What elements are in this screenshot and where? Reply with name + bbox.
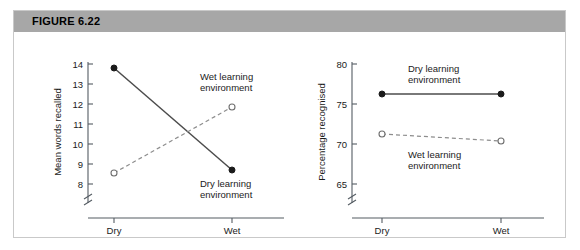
chart-a-xtick-label-dry: Dry [107,225,122,236]
chart-a-label-dry-line2: environment [200,189,253,200]
chart-b-label-dry-line2: environment [408,74,461,85]
chart-a-marker-dry-at-wet [229,167,235,173]
chart-b-ytick-80: 80 [336,59,347,70]
chart-a-label-dry-line1: Dry learning [200,178,251,189]
chart-a-ytick-13: 13 [72,79,83,90]
chart-a-series-wet-line [114,107,232,173]
chart-a-ytick-12: 12 [72,99,83,110]
chart-b-label-wet-line1: Wet learning [408,149,461,160]
chart-b-y-axis-title: Percentage recognised [316,83,327,181]
chart-panel-a: 14 13 12 11 10 9 8 Dry Wet Mean words re… [52,59,284,239]
chart-a-ytick-14: 14 [72,59,83,70]
chart-b-ytick-70: 70 [336,139,347,150]
chart-b-marker-wet-at-wet [498,138,504,144]
figure-plot-area: 14 13 12 11 10 9 8 Dry Wet Mean words re… [14,32,565,238]
chart-a-marker-wet-at-dry [111,170,117,176]
chart-a-marker-wet-at-wet [229,104,235,110]
chart-b-marker-dry-at-dry [379,91,385,97]
chart-a-ytick-11: 11 [73,119,83,130]
chart-b-y-ticks [352,64,357,184]
chart-a-marker-dry-at-dry [111,65,117,71]
chart-b-label-dry-line1: Dry learning [408,63,459,74]
figure-header-bar: FIGURE 6.22 [14,11,565,32]
chart-a-ytick-8: 8 [78,179,83,190]
chart-a-y-ticks [88,64,93,184]
chart-a-ytick-9: 9 [78,159,83,170]
chart-b-series-wet-line [382,134,501,141]
chart-b-marker-dry-at-wet [498,91,504,97]
chart-b-ytick-65: 65 [336,179,347,190]
chart-a-xtick-label-wet: Wet [224,225,241,236]
chart-a-y-axis-title: Mean words recalled [52,88,63,176]
chart-panel-b: 80 75 70 65 Dry Wet Percentage recognise… [316,59,544,239]
chart-b-ytick-75: 75 [336,99,347,110]
chart-b-label-wet-line2: environment [408,160,461,171]
chart-a-label-wet-line1: Wet learning [200,71,253,82]
chart-b-marker-wet-at-dry [379,131,385,137]
chart-a-ytick-10: 10 [72,139,83,150]
charts-svg: 14 13 12 11 10 9 8 Dry Wet Mean words re… [14,32,567,238]
chart-b-xtick-label-wet: Wet [493,225,510,236]
figure-container: FIGURE 6.22 [13,10,566,238]
figure-title: FIGURE 6.22 [32,15,100,27]
chart-b-xtick-label-dry: Dry [375,225,390,236]
chart-a-label-wet-line2: environment [200,82,253,93]
